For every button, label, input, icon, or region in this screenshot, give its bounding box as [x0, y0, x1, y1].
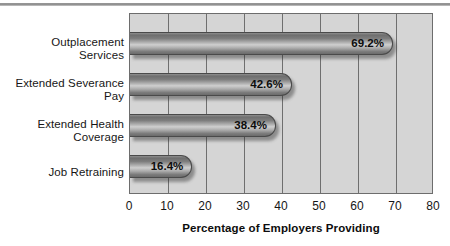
value-axis-tick-labels: 01020304050607080	[129, 198, 433, 214]
tick-label: 50	[312, 198, 325, 214]
tick-label: 20	[198, 198, 211, 214]
bar-value-label: 69.2%	[351, 32, 384, 55]
bar-series: 69.2%42.6%38.4%16.4%	[130, 14, 432, 193]
category-label-job-retraining: Job Retraining	[0, 166, 124, 179]
tick-label: 0	[126, 198, 133, 214]
top-divider	[0, 3, 450, 6]
category-label-extended-severance-pay: Extended Severance Pay	[0, 77, 124, 103]
tick-label: 70	[388, 198, 401, 214]
tick-label: 40	[274, 198, 287, 214]
plot-area: 69.2%42.6%38.4%16.4%	[129, 13, 433, 194]
category-label-line: Extended Severance	[0, 77, 124, 90]
category-label-line: Outplacement	[0, 36, 124, 49]
bar-value-label: 38.4%	[234, 114, 267, 137]
bar: 38.4%	[130, 114, 276, 137]
category-label-line: Coverage	[0, 131, 124, 144]
category-label-line: Services	[0, 49, 124, 62]
tick-label: 80	[426, 198, 439, 214]
bar-value-label: 42.6%	[250, 73, 283, 96]
tick-label: 60	[350, 198, 363, 214]
bar: 69.2%	[130, 32, 393, 55]
category-label-line: Extended Health	[0, 118, 124, 131]
bar: 16.4%	[130, 155, 192, 178]
bar-chart-figure: Outplacement Services Extended Severance…	[0, 0, 450, 246]
tick-label: 30	[236, 198, 249, 214]
category-label-extended-health-coverage: Extended Health Coverage	[0, 118, 124, 144]
bar: 42.6%	[130, 73, 292, 96]
category-axis-labels: Outplacement Services Extended Severance…	[0, 13, 124, 194]
category-label-line: Pay	[0, 90, 124, 103]
category-label-outplacement-services: Outplacement Services	[0, 36, 124, 62]
x-axis-title: Percentage of Employers Providing	[129, 222, 433, 234]
bar-value-label: 16.4%	[151, 155, 184, 178]
category-label-line: Job Retraining	[0, 166, 124, 179]
tick-label: 10	[160, 198, 173, 214]
